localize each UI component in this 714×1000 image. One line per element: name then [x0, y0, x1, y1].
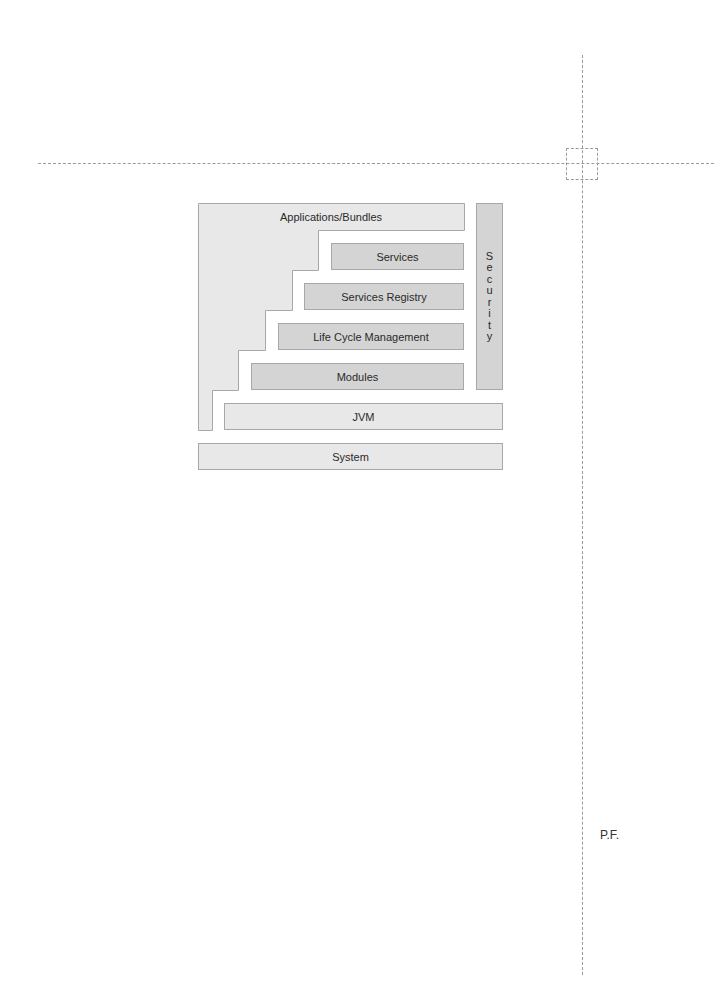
- layer-services: Services: [331, 243, 464, 270]
- security-letter: i: [488, 308, 490, 320]
- security-letter: u: [486, 285, 492, 297]
- page-mark-initials: P.F.: [600, 828, 619, 842]
- security-column: S e c u r i t y: [476, 203, 503, 390]
- layer-system: System: [198, 443, 503, 470]
- osgi-architecture-diagram: Applications/Bundles Services Services R…: [0, 0, 714, 1000]
- layer-modules: Modules: [251, 363, 464, 390]
- layer-services-registry: Services Registry: [304, 283, 464, 310]
- applications-bundles-shape: [0, 0, 714, 1000]
- security-letter: e: [486, 262, 492, 274]
- layer-life-cycle-management: Life Cycle Management: [278, 323, 464, 350]
- layer-jvm: JVM: [224, 403, 503, 430]
- applications-bundles-label: Applications/Bundles: [198, 203, 464, 230]
- security-letter: y: [487, 331, 493, 343]
